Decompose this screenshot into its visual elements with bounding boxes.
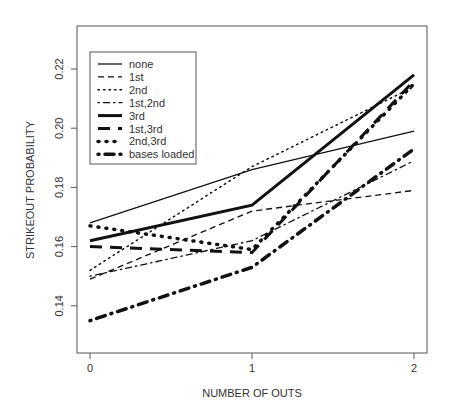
y-tick-label: 0.18: [53, 177, 65, 198]
x-tick-label: 0: [87, 362, 93, 374]
line-chart: 0.140.160.180.200.22 012 STRIKEOUT PROBA…: [0, 0, 450, 419]
y-tick-label: 0.16: [53, 236, 65, 257]
x-axis: 012: [87, 353, 417, 374]
y-tick-label: 0.20: [53, 117, 65, 138]
x-axis-label: NUMBER OF OUTS: [202, 387, 302, 399]
y-tick-label: 0.22: [53, 58, 65, 79]
legend: none1st2nd1st,2nd3rd1st,3rd2nd,3rdbases …: [90, 52, 196, 164]
y-axis-label: STRIKEOUT PROBABILITY: [24, 120, 36, 259]
x-tick-label: 1: [249, 362, 255, 374]
y-axis: 0.140.160.180.200.22: [53, 58, 77, 316]
legend-label: 3rd: [129, 110, 145, 122]
legend-label: 1st: [129, 71, 144, 83]
legend-label: 2nd,3rd: [129, 135, 166, 147]
legend-label: bases loaded: [129, 148, 194, 160]
legend-label: 1st,3rd: [129, 123, 163, 135]
y-tick-label: 0.14: [53, 295, 65, 316]
x-tick-label: 2: [411, 362, 417, 374]
legend-label: 2nd: [129, 84, 147, 96]
legend-label: 1st,2nd: [129, 97, 165, 109]
series-line-bases-loaded: [90, 149, 414, 321]
legend-label: none: [129, 58, 153, 70]
